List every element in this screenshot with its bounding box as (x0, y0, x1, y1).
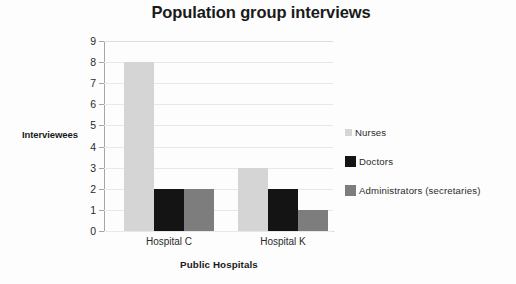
bar (124, 62, 154, 231)
y-axis-tick-label: 3 (70, 162, 96, 174)
y-axis-tick-label: 4 (70, 141, 96, 153)
legend-item[interactable]: Nurses (345, 127, 386, 138)
bar (154, 189, 184, 231)
bar-series-layer (104, 41, 333, 231)
y-axis-tick-label: 8 (70, 56, 96, 68)
x-axis-tick-label: Hospital K (260, 236, 306, 247)
legend-swatch-icon (345, 185, 356, 196)
bar (298, 210, 328, 231)
bar-chart-figure: Population group interviews 0123456789 I… (0, 0, 516, 284)
y-axis-tick (99, 231, 104, 232)
bar (238, 168, 268, 231)
legend-item[interactable]: Doctors (345, 156, 393, 167)
y-axis-tick-label: 9 (70, 35, 96, 47)
y-axis-tick-label: 1 (70, 204, 96, 216)
y-axis-title: Interviewees (22, 129, 102, 140)
gridline (104, 231, 333, 232)
legend-swatch-icon (345, 129, 352, 136)
bar (268, 189, 298, 231)
y-axis-tick-label: 0 (70, 225, 96, 237)
legend-item-label: Doctors (359, 156, 393, 167)
legend-item[interactable]: Administrators (secretaries) (345, 185, 480, 196)
legend-item-label: Nurses (355, 127, 386, 138)
bar (184, 189, 214, 231)
x-axis-title: Public Hospitals (104, 259, 334, 270)
y-axis-tick-label: 6 (70, 98, 96, 110)
legend-item-label: Administrators (secretaries) (359, 185, 480, 196)
x-axis-tick-label: Hospital C (146, 236, 192, 247)
y-axis-tick-label: 2 (70, 183, 96, 195)
legend-swatch-icon (345, 156, 356, 167)
y-axis-tick-label: 7 (70, 77, 96, 89)
chart-title: Population group interviews (0, 3, 516, 22)
